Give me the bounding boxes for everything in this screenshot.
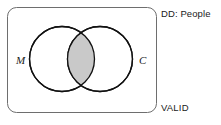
domain-of-discourse-label: DD: People (161, 9, 211, 19)
set-c-label: C (139, 55, 146, 66)
venn-diagram-canvas: DD: People VALID M C (0, 0, 221, 125)
set-m-label: M (16, 55, 25, 66)
validity-status-label: VALID (161, 103, 189, 113)
